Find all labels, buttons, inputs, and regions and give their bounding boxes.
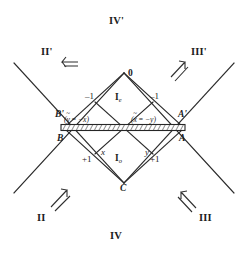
edge-value-upper-right: –1 — [150, 92, 159, 101]
edge-value-lower-right: +1 — [150, 155, 160, 164]
vertex-label-left-lower: B — [57, 134, 63, 144]
arrow-up-right-icon-lower — [51, 189, 70, 211]
edge-value-lower-left: +1 — [82, 155, 92, 164]
relation-left: (y = −x) — [64, 116, 89, 124]
relation-right-close: ) — [154, 115, 157, 124]
relation-right-op: = — [137, 115, 145, 124]
penrose-diagram: IV' II' III' II III IV 0 C B' B A' A –1 … — [0, 0, 248, 253]
coordinate-label-right: y — [145, 148, 149, 157]
hatched-band — [61, 125, 185, 131]
region-label-bottom: IV — [110, 231, 122, 242]
arrow-left-icon — [62, 57, 78, 67]
vertex-label-right-lower: A — [179, 134, 185, 144]
arrow-up-left-icon — [178, 191, 196, 212]
vertex-label-left-upper: B' — [55, 110, 64, 120]
region-label-upper-right: III' — [191, 47, 207, 58]
region-label-lower-right: III — [199, 213, 212, 224]
relation-left-lhs: y — [67, 116, 70, 124]
coordinate-label-left: x — [101, 148, 105, 157]
relation-left-op: = — [70, 115, 78, 124]
interior-even-sub: e — [119, 96, 122, 103]
region-label-lower-left: II — [37, 213, 46, 224]
vertex-label-bottom: C — [120, 184, 126, 194]
interior-label-even: Ie — [115, 93, 122, 104]
vertex-label-top: 0 — [128, 69, 133, 79]
interior-label-odd: Io — [115, 154, 122, 165]
relation-right: (x = −y) — [131, 116, 156, 124]
segment-lower-left-inner — [95, 128, 124, 154]
arrow-up-right-icon-upper — [171, 61, 188, 81]
edge-value-upper-left: –1 — [85, 92, 94, 101]
relation-left-rhs: −x — [78, 115, 87, 124]
region-label-upper-left: II' — [41, 47, 53, 58]
relation-right-lhs: x — [134, 116, 137, 124]
region-label-top: IV' — [109, 16, 124, 27]
interior-odd-sub: o — [119, 157, 122, 164]
vertex-label-right-upper: A' — [178, 110, 187, 120]
relation-right-rhs: −y — [145, 115, 154, 124]
relation-left-close: ) — [87, 115, 90, 124]
